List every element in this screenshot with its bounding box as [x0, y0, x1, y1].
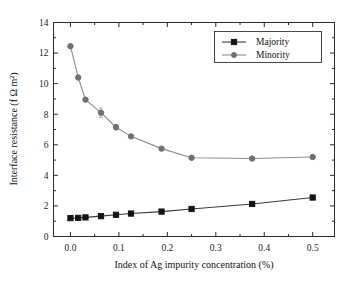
data-point-majority [76, 215, 81, 220]
data-point-minority [249, 156, 254, 161]
data-point-minority [98, 110, 103, 115]
data-point-majority [250, 201, 255, 206]
legend-label-minority: Minority [256, 50, 290, 60]
data-point-minority [76, 75, 81, 80]
data-point-majority [189, 206, 194, 211]
y-tick-label: 6 [44, 140, 49, 150]
y-tick-label: 4 [44, 171, 49, 181]
x-tick-label: 0.0 [65, 243, 77, 253]
data-series-group [68, 43, 316, 220]
y-tick-label: 8 [44, 110, 49, 120]
y-tick-label: 2 [44, 201, 49, 211]
data-point-majority [159, 209, 164, 214]
chart-legend: MajorityMinority [215, 32, 322, 63]
x-tick-label: 0.2 [161, 243, 173, 253]
data-point-minority [83, 97, 88, 102]
data-point-majority [98, 214, 103, 219]
y-tick-label: 14 [39, 18, 49, 28]
data-point-minority [310, 154, 315, 159]
chart-figure: 0.00.10.20.30.40.5 02468101214 MajorityM… [0, 0, 351, 285]
x-axis-title: Index of Ag impurity concentration (%) [114, 259, 273, 271]
x-tick-label: 0.3 [210, 243, 222, 253]
data-point-minority [128, 134, 133, 139]
data-point-majority [310, 195, 315, 200]
legend-marker-minority [232, 53, 237, 58]
y-tick-label: 12 [39, 48, 49, 58]
data-point-minority [189, 155, 194, 160]
series-line-minority [70, 46, 312, 158]
x-tick-label: 0.1 [113, 243, 125, 253]
y-axis-title: Interface resistance (f Ω m²) [8, 72, 20, 185]
data-point-majority [113, 212, 118, 217]
chart-canvas: 0.00.10.20.30.40.5 02468101214 MajorityM… [0, 0, 351, 285]
y-tick-label: 0 [44, 232, 49, 242]
legend-label-majority: Majority [256, 37, 289, 47]
x-tick-label: 0.4 [258, 243, 270, 253]
y-tick-label: 10 [39, 79, 49, 89]
x-tick-label: 0.5 [307, 243, 319, 253]
data-point-minority [68, 43, 73, 48]
legend-marker-majority [231, 39, 236, 44]
data-point-minority [113, 125, 118, 130]
data-point-majority [83, 215, 88, 220]
data-point-majority [128, 211, 133, 216]
data-point-minority [159, 146, 164, 151]
data-point-majority [68, 216, 73, 221]
